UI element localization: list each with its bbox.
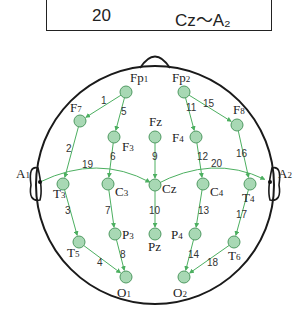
link-number-20: 20 (211, 158, 223, 169)
electrode-label-f7: F7 (70, 100, 82, 115)
link-number-15: 15 (203, 98, 215, 109)
electrode-label-cz: Cz (162, 181, 177, 196)
link-number-17: 17 (236, 209, 248, 220)
electrode-p3 (109, 228, 121, 240)
link-number-19: 19 (82, 159, 94, 170)
link-number-3: 3 (65, 205, 71, 216)
electrodes: Fp1Fp2F7F3FzF4F8T3C3CzC4T4T5P3PzP4T6O1O2… (16, 70, 292, 300)
link-number-9: 9 (152, 151, 158, 162)
link-number-13: 13 (198, 205, 210, 216)
electrode-label-fp2: Fp2 (172, 70, 190, 85)
electrode-c4 (197, 178, 209, 190)
link-number-10: 10 (149, 205, 161, 216)
link-number-11: 11 (186, 102, 197, 113)
eeg-montage-diagram: 1234567891011121314151617181920 Fp1Fp2F7… (0, 0, 293, 309)
electrode-label-t6: T6 (228, 248, 241, 263)
electrode-cz (149, 179, 161, 191)
ear-reference-a1 (38, 180, 42, 184)
electrode-f4 (190, 131, 202, 143)
electrode-fp1 (120, 86, 132, 98)
ear-label-a1: A1 (16, 166, 30, 181)
electrode-f8 (231, 119, 243, 131)
electrode-t6 (228, 236, 240, 248)
ear-reference-a2 (268, 180, 272, 184)
link-number-8: 8 (120, 249, 126, 260)
electrode-t4 (244, 178, 256, 190)
electrode-label-o1: O1 (117, 285, 131, 300)
electrode-label-p4: P4 (171, 227, 183, 242)
link-number-6: 6 (110, 151, 116, 162)
link-number-16: 16 (236, 148, 248, 159)
electrode-label-fp1: Fp1 (130, 70, 148, 85)
electrode-label-pz: Pz (148, 239, 161, 254)
link-number-4: 4 (97, 257, 103, 268)
electrode-label-c4: C4 (210, 184, 224, 199)
link-number-14: 14 (188, 249, 200, 260)
electrode-label-t4: T4 (242, 190, 255, 205)
electrode-o1 (120, 271, 132, 283)
electrode-f3 (108, 131, 120, 143)
link-number-18: 18 (207, 257, 219, 268)
electrode-f7 (74, 115, 86, 127)
electrode-label-f4: F4 (172, 130, 184, 145)
electrode-fz (149, 131, 161, 143)
electrode-label-p3: P3 (122, 227, 134, 242)
ear-label-a2: A2 (278, 166, 292, 181)
electrode-label-f3: F3 (122, 139, 134, 154)
electrode-p4 (189, 228, 201, 240)
electrode-o2 (178, 271, 190, 283)
link-number-1: 1 (101, 95, 107, 106)
montage-link-19 (40, 168, 150, 182)
link-number-12: 12 (197, 151, 209, 162)
electrode-c3 (102, 178, 114, 190)
electrode-fp2 (178, 86, 190, 98)
electrode-label-c3: C3 (115, 184, 129, 199)
link-number-7: 7 (105, 205, 111, 216)
electrode-label-fz: Fz (149, 114, 162, 129)
link-number-2: 2 (66, 143, 72, 154)
electrode-label-o2: O2 (173, 285, 187, 300)
link-number-5: 5 (121, 106, 127, 117)
